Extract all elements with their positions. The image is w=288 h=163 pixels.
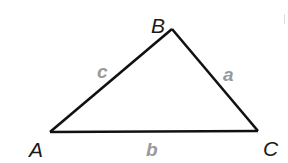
triangle-diagram: A B C c a b <box>0 0 288 163</box>
vertex-label-b-upper: B <box>151 14 165 37</box>
side-label-b: b <box>146 139 158 160</box>
side-label-a: a <box>223 64 234 85</box>
side-c-edge <box>50 29 172 132</box>
side-a-edge <box>172 29 258 131</box>
side-label-c: c <box>97 61 108 82</box>
side-b-edge <box>50 131 258 132</box>
vertex-label-a-upper: A <box>27 138 43 161</box>
vertex-label-c-upper: C <box>263 137 279 160</box>
